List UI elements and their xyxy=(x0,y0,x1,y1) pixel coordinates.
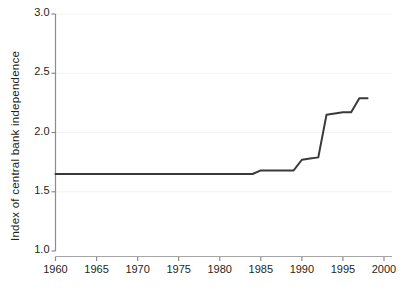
x-tick-label: 1980 xyxy=(200,263,240,275)
x-tick-label: 1990 xyxy=(282,263,322,275)
x-tick-label: 1995 xyxy=(323,263,363,275)
line-chart-plot xyxy=(0,0,414,292)
data-series-line xyxy=(56,98,368,174)
gridlines xyxy=(56,14,393,192)
x-tick-label: 1965 xyxy=(77,263,117,275)
x-tick-label: 1970 xyxy=(118,263,158,275)
y-tick-label: 1.5 xyxy=(20,184,50,196)
x-axis-ticks xyxy=(56,257,385,262)
y-tick-label: 2.0 xyxy=(20,125,50,137)
x-tick-label: 1985 xyxy=(241,263,281,275)
x-tick-label: 2000 xyxy=(364,263,404,275)
y-tick-label: 3.0 xyxy=(20,6,50,18)
x-tick-label: 1960 xyxy=(36,263,76,275)
x-tick-label: 1975 xyxy=(159,263,199,275)
chart-figure: Index of central bank independence 1.01.… xyxy=(0,0,414,292)
y-tick-label: 1.0 xyxy=(20,243,50,255)
y-tick-label: 2.5 xyxy=(20,65,50,77)
